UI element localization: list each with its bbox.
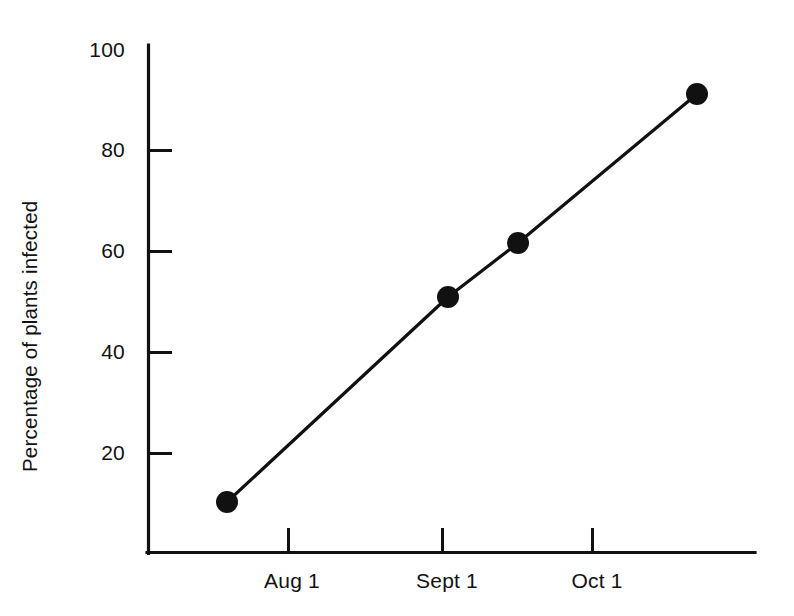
data-point-4 xyxy=(686,83,708,105)
data-point-3 xyxy=(507,232,529,254)
y-tick-label-80: 80 xyxy=(50,138,125,162)
y-tick-label-40: 40 xyxy=(50,340,125,364)
data-point-1 xyxy=(216,491,238,513)
y-axis-title: Percentage of plants infected xyxy=(18,142,48,472)
y-tick-label-100: 100 xyxy=(50,38,125,62)
chart-figure: 100 80 60 40 20 Aug 1 Sept 1 Oct 1 Perce… xyxy=(0,0,794,616)
chart-plot-area xyxy=(0,0,794,616)
x-tick-label-oct-1: Oct 1 xyxy=(571,569,622,593)
data-point-2 xyxy=(437,286,459,308)
y-tick-label-20: 20 xyxy=(50,441,125,465)
series-line-infection xyxy=(227,94,697,502)
x-tick-label-sept-1: Sept 1 xyxy=(416,569,478,593)
x-tick-label-aug-1: Aug 1 xyxy=(264,569,320,593)
y-tick-label-60: 60 xyxy=(50,239,125,263)
